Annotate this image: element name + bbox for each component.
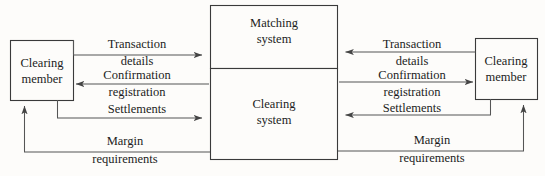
confirmation-registration-left-label-line2: registration — [109, 85, 167, 99]
clearing-member-right-label-line2: member — [486, 70, 528, 84]
flow-settlements-left: Settlements — [58, 100, 203, 118]
matching-system-label-line2: system — [257, 32, 292, 46]
clearing-system-label-line1: Clearing — [252, 97, 296, 111]
transaction-details-left-label-line2: details — [121, 54, 154, 68]
transaction-details-left-label-line1: Transaction — [108, 37, 167, 51]
clearing-member-left-label-line2: member — [22, 72, 64, 86]
flow-diagram: Clearing member Matching system Clearing… — [0, 0, 545, 176]
node-clearing-member-left: Clearing member — [11, 41, 74, 101]
margin-requirements-left-label-line2: requirements — [92, 152, 157, 166]
clearing-member-left-box — [11, 41, 74, 101]
clearing-system-label-line2: system — [257, 113, 292, 127]
node-clearing-system: Clearing system — [211, 69, 338, 160]
margin-requirements-right-label-line1: Margin — [414, 133, 451, 147]
transaction-details-right-label-line2: details — [396, 54, 429, 68]
matching-system-label-line1: Matching — [250, 16, 299, 30]
flow-confirmation-registration-right: Confirmation registration — [339, 68, 473, 99]
settlements-left-label: Settlements — [108, 102, 166, 116]
diagram-canvas: Clearing member Matching system Clearing… — [0, 0, 545, 176]
node-clearing-member-right: Clearing member — [476, 39, 538, 100]
flow-settlements-right: Settlements — [346, 99, 491, 115]
confirmation-registration-right-label-line2: registration — [384, 85, 442, 99]
flow-transaction-details-right: Transaction details — [346, 37, 476, 68]
confirmation-registration-right-label-line1: Confirmation — [378, 68, 446, 82]
transaction-details-right-label-line1: Transaction — [383, 37, 442, 51]
node-matching-system: Matching system — [211, 6, 338, 69]
settlements-right-label: Settlements — [383, 101, 441, 115]
margin-requirements-left-label-line1: Margin — [107, 134, 144, 148]
confirmation-registration-left-label-line1: Confirmation — [103, 68, 171, 82]
clearing-member-right-label-line1: Clearing — [484, 54, 528, 68]
clearing-member-left-label-line1: Clearing — [20, 56, 64, 70]
flow-confirmation-registration-left: Confirmation registration — [76, 68, 209, 99]
margin-requirements-right-label-line2: requirements — [399, 151, 464, 165]
flow-transaction-details-left: Transaction details — [74, 37, 203, 68]
